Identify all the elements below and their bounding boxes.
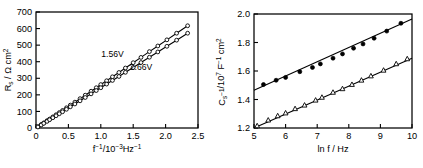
data-point [186, 24, 190, 28]
data-point [283, 110, 288, 114]
data-point [105, 82, 109, 86]
x-axis-title: ln f / Hz [317, 144, 349, 154]
data-point [255, 123, 260, 127]
data-point [381, 68, 386, 72]
data-point [148, 50, 152, 54]
curve-label: 2.66V [130, 62, 153, 72]
data-point [318, 62, 322, 66]
series-capacitance-plot: 1.21.41.61.82.05678910ln f / HzCs−1/107 … [212, 0, 423, 168]
data-point [394, 61, 399, 65]
x-tick-label: 6 [283, 131, 288, 141]
data-point [340, 52, 344, 56]
y-tick-label: 700 [17, 7, 32, 17]
resistance-plot-svg: 010020030040050060070000.51.01.52.02.51.… [0, 0, 211, 168]
data-point [385, 29, 389, 33]
data-point [340, 86, 345, 90]
data-point [124, 70, 128, 74]
data-point [78, 99, 82, 103]
data-point [293, 106, 298, 110]
y-tick-label: 600 [17, 24, 32, 34]
data-point [165, 38, 169, 42]
data-point [369, 73, 374, 77]
data-point [359, 78, 364, 82]
data-point [186, 31, 190, 35]
y-tick-label: 100 [17, 107, 32, 117]
data-point [111, 79, 115, 83]
x-tick-label: 2.0 [159, 131, 172, 141]
data-point [361, 42, 365, 46]
data-point [274, 78, 278, 82]
x-tick-label: 7 [315, 131, 320, 141]
capacitance-plot-svg: 1.21.41.61.82.05678910ln f / HzCs−1/107 … [212, 0, 423, 168]
x-tick-label: 0.5 [62, 131, 75, 141]
data-point [352, 46, 356, 50]
y-tick-label: 1.6 [237, 66, 250, 76]
data-point [68, 105, 72, 109]
x-tick-label: 2.5 [192, 131, 205, 141]
data-point [156, 44, 160, 48]
y-tick-label: 1.2 [237, 123, 250, 133]
y-tick-label: 200 [17, 90, 32, 100]
x-tick-label: 1.0 [94, 131, 107, 141]
data-point [320, 95, 325, 99]
data-point [266, 118, 271, 122]
data-point [89, 92, 93, 96]
data-point [148, 55, 152, 59]
y-tick-label: 2.0 [237, 9, 250, 19]
x-axis-title: f−1/10−3Hz−1 [93, 143, 142, 154]
curve-label: 1.56V [101, 49, 124, 59]
y-axis-title: Cs−1/107 F−1 cm2 [215, 38, 228, 106]
series-resistance-plot: 010020030040050060070000.51.01.52.02.51.… [0, 0, 211, 168]
data-point [313, 98, 318, 102]
data-point [302, 103, 307, 107]
x-tick-label: 9 [378, 131, 383, 141]
y-axis-title: Rs / Ω cm2 [2, 48, 15, 91]
data-point [331, 56, 335, 60]
y-tick-label: 400 [17, 57, 32, 67]
data-point [99, 86, 103, 90]
y-tick-label: 0 [27, 123, 32, 133]
x-tick-label: 5 [251, 131, 256, 141]
data-point [405, 56, 410, 60]
data-point [298, 70, 302, 74]
y-tick-label: 1.8 [237, 38, 250, 48]
x-tick-label: 10 [407, 131, 417, 141]
data-point [94, 89, 98, 93]
data-point [331, 90, 336, 94]
data-point [61, 110, 65, 114]
figure-container: 010020030040050060070000.51.01.52.02.51.… [0, 0, 423, 168]
data-point [165, 44, 169, 48]
data-point [261, 83, 265, 87]
data-point [399, 21, 403, 25]
x-tick-label: 1.5 [127, 131, 140, 141]
data-point [310, 65, 314, 69]
data-point [175, 38, 179, 42]
data-point [73, 102, 77, 106]
data-point [83, 96, 87, 100]
y-tick-label: 1.4 [237, 95, 250, 105]
data-point [175, 31, 179, 35]
x-tick-label: 8 [346, 131, 351, 141]
data-point [65, 107, 69, 111]
data-point [284, 75, 288, 79]
y-tick-label: 500 [17, 40, 32, 50]
y-tick-label: 300 [17, 73, 32, 83]
x-tick-label: 0 [33, 131, 38, 141]
data-point [275, 113, 280, 117]
data-point [372, 36, 376, 40]
data-point [124, 66, 128, 70]
data-point [117, 75, 121, 79]
data-point [156, 50, 160, 54]
data-point [139, 56, 143, 60]
data-point [350, 82, 355, 86]
data-point [117, 71, 121, 75]
